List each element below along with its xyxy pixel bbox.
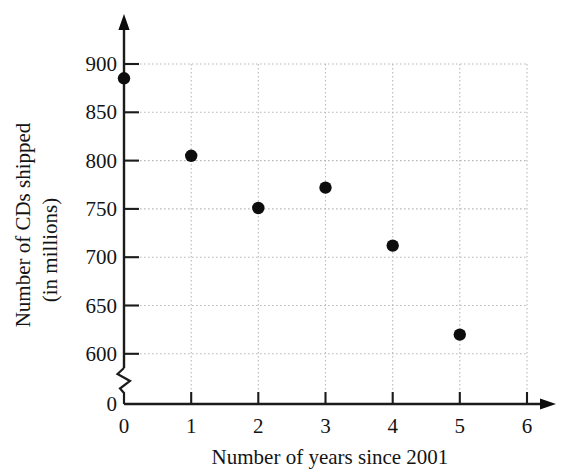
y-axis xyxy=(118,14,140,404)
scatter-plot-figure: 900 850 800 750 700 650 600 0 0 1 2 3 4 … xyxy=(0,0,586,470)
data-point xyxy=(118,72,130,84)
plot-canvas: 900 850 800 750 700 650 600 0 0 1 2 3 4 … xyxy=(0,0,586,470)
y-axis-title-line2: (in millions) xyxy=(38,198,62,302)
y-origin-label: 0 xyxy=(107,392,118,416)
y-axis-break-icon xyxy=(118,368,131,404)
data-point xyxy=(454,328,466,340)
y-tick-label-650: 650 xyxy=(86,294,118,318)
y-tick-label-800: 800 xyxy=(86,149,118,173)
y-tick-labels: 900 850 800 750 700 650 600 0 xyxy=(86,52,118,416)
y-tick-label-850: 850 xyxy=(86,100,118,124)
data-points xyxy=(118,72,466,341)
x-tick-label-3: 3 xyxy=(320,414,331,438)
x-tick-label-2: 2 xyxy=(253,414,264,438)
y-axis-arrowhead-icon xyxy=(118,14,129,30)
x-tick-label-6: 6 xyxy=(522,414,533,438)
y-tick-label-900: 900 xyxy=(86,52,118,76)
x-tick-labels: 0 1 2 3 4 5 6 xyxy=(119,414,533,438)
x-axis-title: Number of years since 2001 xyxy=(212,445,449,469)
x-tick-label-5: 5 xyxy=(455,414,466,438)
data-point xyxy=(387,239,399,251)
y-tick-label-600: 600 xyxy=(86,342,118,366)
y-axis-title-line1: Number of CDs shipped xyxy=(11,122,35,327)
x-axis xyxy=(124,392,556,410)
x-tick-label-1: 1 xyxy=(186,414,197,438)
x-tick-label-0: 0 xyxy=(119,414,130,438)
x-axis-arrowhead-icon xyxy=(540,398,556,409)
y-tick-label-700: 700 xyxy=(86,245,118,269)
data-point xyxy=(185,150,197,162)
y-tick-label-750: 750 xyxy=(86,197,118,221)
gridlines-vertical xyxy=(191,64,527,404)
data-point xyxy=(319,181,331,193)
y-axis-title: Number of CDs shipped (in millions) xyxy=(11,122,62,327)
x-tick-label-4: 4 xyxy=(387,414,398,438)
data-point xyxy=(252,202,264,214)
